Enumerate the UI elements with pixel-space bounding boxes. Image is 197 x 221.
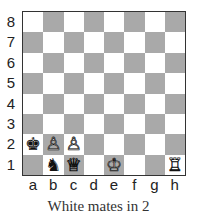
square-h2 [165,134,185,154]
file-label-g: g [145,176,165,193]
square-c6 [64,53,84,73]
rank-label-1: 1 [4,156,18,173]
square-g7 [145,32,165,52]
rank-label-8: 8 [4,13,18,30]
square-b6 [43,53,63,73]
square-b5 [43,73,63,93]
rank-label-5: 5 [4,74,18,91]
square-a2: ♚ [23,134,43,154]
square-d7 [84,32,104,52]
square-a8 [23,12,43,32]
square-h8 [165,12,185,32]
file-label-f: f [124,176,144,193]
square-h6 [165,53,185,73]
diagram-caption: White mates in 2 [0,198,197,215]
square-a7 [23,32,43,52]
square-d8 [84,12,104,32]
square-f7 [124,32,144,52]
square-a1 [23,155,43,175]
square-h3 [165,114,185,134]
square-f4 [124,94,144,114]
black-knight-icon: ♞ [45,156,61,174]
file-label-d: d [84,176,104,193]
square-a4 [23,94,43,114]
white-king-icon: ♔ [106,156,122,174]
square-h7 [165,32,185,52]
square-e6 [104,53,124,73]
file-label-e: e [104,176,124,193]
square-e2 [104,134,124,154]
square-e7 [104,32,124,52]
rank-label-2: 2 [4,135,18,152]
chess-board: ♚♙♙♞♕♔♖ [22,11,186,176]
square-d4 [84,94,104,114]
rank-label-6: 6 [4,54,18,71]
square-c4 [64,94,84,114]
white-rook-icon: ♖ [167,156,183,174]
square-b2: ♙ [43,134,63,154]
square-g4 [145,94,165,114]
rank-label-7: 7 [4,33,18,50]
square-d6 [84,53,104,73]
square-d2 [84,134,104,154]
rank-label-4: 4 [4,95,18,112]
square-e5 [104,73,124,93]
square-b3 [43,114,63,134]
white-pawn-icon: ♙ [66,135,82,153]
square-e1: ♔ [104,155,124,175]
square-c8 [64,12,84,32]
square-e3 [104,114,124,134]
square-e4 [104,94,124,114]
square-h4 [165,94,185,114]
white-pawn-icon: ♙ [45,135,61,153]
square-g8 [145,12,165,32]
square-c7 [64,32,84,52]
square-g3 [145,114,165,134]
square-c1: ♕ [64,155,84,175]
square-d5 [84,73,104,93]
square-f2 [124,134,144,154]
square-a3 [23,114,43,134]
square-g2 [145,134,165,154]
square-c2: ♙ [64,134,84,154]
square-b8 [43,12,63,32]
black-king-icon: ♚ [25,135,41,153]
square-f6 [124,53,144,73]
square-c3 [64,114,84,134]
square-b1: ♞ [43,155,63,175]
square-f5 [124,73,144,93]
square-g5 [145,73,165,93]
file-label-h: h [165,176,185,193]
square-d1 [84,155,104,175]
rank-label-3: 3 [4,115,18,132]
square-f8 [124,12,144,32]
square-e8 [104,12,124,32]
file-label-c: c [64,176,84,193]
white-queen-icon: ♕ [66,156,82,174]
square-f1 [124,155,144,175]
square-f3 [124,114,144,134]
square-b7 [43,32,63,52]
square-a6 [23,53,43,73]
square-h1: ♖ [165,155,185,175]
square-g1 [145,155,165,175]
square-c5 [64,73,84,93]
square-a5 [23,73,43,93]
square-h5 [165,73,185,93]
square-b4 [43,94,63,114]
square-g6 [145,53,165,73]
file-label-b: b [43,176,63,193]
file-label-a: a [23,176,43,193]
square-d3 [84,114,104,134]
